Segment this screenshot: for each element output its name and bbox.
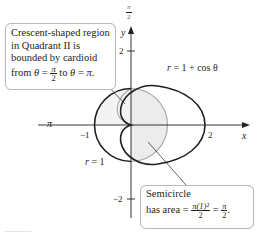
x-tick-label-2: 2 [208,130,213,140]
cardioid-label: r = 1 + cos θ [167,63,218,73]
semicircle-area-callout: Semicircle has area = π(1)²2 = π2. [140,185,254,229]
figure-caption-faint: ▪▪▪▪▪▪▪▪▪▪▪▪▪▪ [5,229,32,234]
y-axis-label: y [121,28,125,38]
polar-label-half-pi: π2 [126,3,132,21]
circle-label: r = 1 [85,157,105,167]
callout-line: Crescent-shaped region [11,27,113,40]
x-axis-arrow [242,122,250,128]
callout-bottom-leader [148,142,186,185]
fraction: π(1)²2 [191,202,210,220]
callout-line: bounded by cardioid [11,52,113,65]
crescent-region-callout: Crescent-shaped region in Quadrant II is… [5,23,116,90]
x-tick-label-neg1: −1 [80,130,90,140]
y-tick-label-neg2: −2 [113,194,123,204]
x-axis-label: x [242,131,246,141]
callout-line: in Quadrant II is [11,40,113,53]
polar-label-pi: π [47,119,52,129]
callout-line: Semicircle [146,188,251,201]
callout-line: has area = π(1)²2 = π2. [146,202,251,220]
y-tick-label-2: 2 [119,46,124,56]
callout-line: from θ = π2 to θ = π. [11,65,113,83]
y-axis-arrow [128,26,134,34]
